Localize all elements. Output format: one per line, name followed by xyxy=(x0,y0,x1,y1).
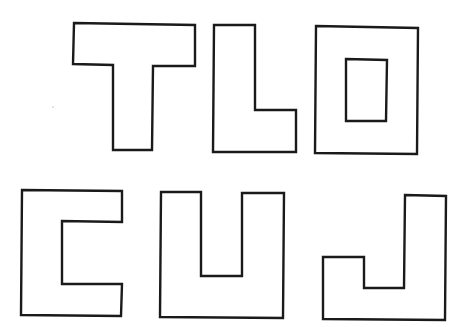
letter-j-outline xyxy=(323,195,446,320)
letter-o-inner-outline xyxy=(346,59,387,121)
paper-speck xyxy=(52,106,54,108)
letter-c-outline xyxy=(21,190,122,316)
letter-t-outline xyxy=(73,23,195,150)
letter-l-outline xyxy=(213,25,296,152)
letter-u-outline xyxy=(160,192,284,318)
diagram-svg xyxy=(0,0,454,327)
letter-outline-diagram xyxy=(0,0,454,327)
